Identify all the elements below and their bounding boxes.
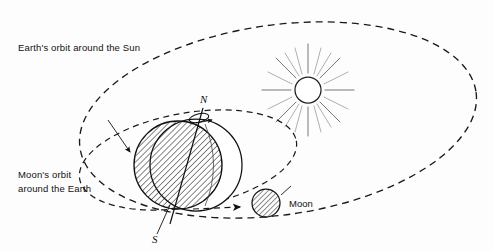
moon-disc (252, 189, 280, 217)
earth-orbit-label: Earth's orbit around the Sun (18, 42, 140, 53)
moon-orbit-label-line1: Moon's orbit (18, 169, 71, 180)
north-pole-label: N (199, 93, 208, 105)
diagram-canvas: Earth's orbit around the Sun Moon's orbi… (0, 0, 493, 251)
south-pole-label: S (152, 233, 158, 245)
moon-label: Moon (289, 198, 313, 209)
moon-orbit-direction-arrow (108, 120, 130, 152)
orbit-diagram: Earth's orbit around the Sun Moon's orbi… (0, 0, 493, 251)
moon-label-leader (281, 186, 291, 195)
moon-orbit-label-line2: around the Earth (18, 183, 91, 194)
sun (262, 44, 354, 136)
sun-disc (295, 77, 321, 103)
moon (252, 186, 291, 217)
